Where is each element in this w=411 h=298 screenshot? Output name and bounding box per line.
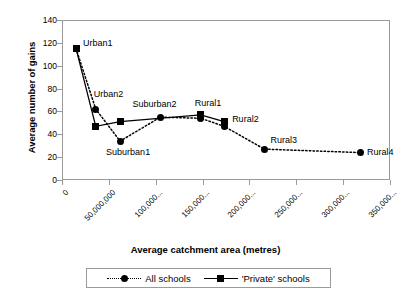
x-axis-title: Average catchment area (metres) — [0, 244, 411, 255]
legend-marker-circle-icon — [107, 274, 141, 283]
x-tick-label: 350,000... — [392, 163, 411, 195]
chart-legend: All schools'Private' schools — [86, 268, 331, 288]
y-tick-label: 140 — [29, 16, 57, 25]
y-tick-label: 40 — [29, 130, 57, 139]
x-tick-mark — [343, 180, 344, 185]
legend-entry-1[interactable]: 'Private' schools — [204, 273, 310, 284]
point-label-rural1: Rural1 — [195, 99, 222, 108]
data-point-marker — [221, 118, 228, 125]
legend-entry-0[interactable]: All schools — [107, 273, 190, 284]
x-tick-label-text: 250,000... — [273, 188, 305, 220]
data-point-marker — [261, 146, 268, 153]
point-label-rural3: Rural3 — [270, 136, 297, 145]
point-label-rural4: Rural4 — [367, 148, 394, 157]
data-point-marker — [92, 123, 99, 130]
x-tick-label-text: 200,000... — [226, 188, 258, 220]
x-tick-mark — [249, 180, 250, 185]
legend-label: All schools — [145, 273, 190, 284]
x-tick-mark — [296, 180, 297, 185]
x-tick-label-text: 50,000,000 — [83, 188, 118, 223]
point-label-urban1: Urban1 — [83, 39, 113, 48]
legend-label: 'Private' schools — [242, 273, 310, 284]
y-tick-label: 60 — [29, 107, 57, 116]
point-label-suburban1: Suburban1 — [106, 148, 150, 157]
legend-marker-square-icon — [204, 274, 238, 283]
x-tick-label-text: 0 — [61, 188, 71, 198]
point-label-urban2: Urban2 — [94, 90, 124, 99]
point-label-rural2: Rural2 — [232, 115, 259, 124]
y-tick-label: 0 — [29, 176, 57, 185]
x-tick-mark — [156, 180, 157, 185]
data-point-marker — [92, 106, 99, 113]
legend-marker — [121, 275, 128, 282]
x-tick-mark — [203, 180, 204, 185]
data-point-marker — [73, 45, 80, 52]
x-tick-label-text: 100,000... — [133, 188, 165, 220]
chart-container: Average number of gains 1401201008060402… — [0, 0, 411, 298]
data-point-marker — [117, 118, 124, 125]
y-tick-label: 20 — [29, 153, 57, 162]
y-tick-label: 100 — [29, 62, 57, 71]
x-tick-label: 0 — [64, 185, 74, 195]
x-tick-mark — [109, 180, 110, 185]
legend-marker — [217, 275, 224, 282]
data-point-marker — [117, 138, 124, 145]
x-tick-label-text: 350,000... — [367, 188, 399, 220]
x-tick-mark — [62, 180, 63, 185]
x-tick-label-text: 300,000... — [320, 188, 352, 220]
data-point-marker — [157, 114, 164, 121]
point-label-suburban2: Suburban2 — [132, 100, 176, 109]
data-point-marker — [357, 149, 364, 156]
y-tick-label: 120 — [29, 39, 57, 48]
y-tick-label: 80 — [29, 85, 57, 94]
data-point-marker — [197, 111, 204, 118]
x-tick-mark — [390, 180, 391, 185]
x-tick-label-text: 150,000... — [179, 188, 211, 220]
